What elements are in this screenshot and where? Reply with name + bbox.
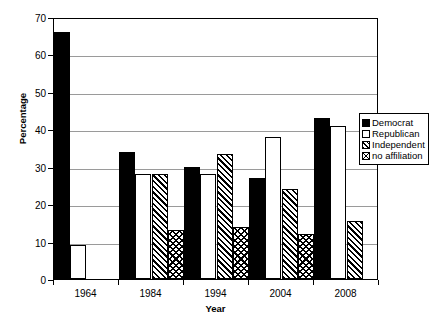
bar-2008-republican: [330, 126, 346, 279]
y-tick-mark-20: [48, 205, 53, 206]
plot-area: [53, 18, 378, 280]
y-tick-label-20: 20: [16, 200, 46, 211]
bar-2004-democrat: [249, 178, 265, 279]
legend-label: no affiliation: [372, 150, 423, 161]
y-tick-label-0: 0: [16, 275, 46, 286]
y-tick-mark-30: [48, 168, 53, 169]
x-tick-mark-3: [313, 280, 314, 285]
y-tick-mark-50: [48, 93, 53, 94]
legend-label: Democrat: [372, 117, 413, 128]
bar-1994-democrat: [184, 167, 200, 279]
y-tick-mark-60: [48, 55, 53, 56]
bar-2008-democrat: [314, 118, 330, 279]
bar-2004-no-affiliation: [298, 234, 314, 279]
y-axis-tick-labels: 706050403020100: [16, 0, 46, 317]
x-tick-label-1984: 1984: [116, 288, 186, 299]
y-tick-label-40: 40: [16, 125, 46, 136]
y-tick-label-60: 60: [16, 50, 46, 61]
legend-swatch-icon-republican: [362, 130, 370, 138]
y-tick-label-70: 70: [16, 13, 46, 24]
y-tick-mark-70: [48, 18, 53, 19]
x-tick-mark-4: [378, 280, 379, 285]
legend-item-republican[interactable]: Republican: [362, 128, 425, 139]
x-tick-mark-1: [183, 280, 184, 285]
x-tick-mark-origin: [53, 280, 54, 285]
x-tick-label-2008: 2008: [311, 288, 381, 299]
legend-swatch-icon-independent: [362, 141, 370, 149]
x-tick-label-1994: 1994: [181, 288, 251, 299]
bar-1964-democrat: [54, 32, 70, 279]
legend-swatch-icon-democrat: [362, 119, 370, 127]
chart-legend: DemocratRepublicanIndependentno affiliat…: [359, 113, 429, 165]
legend-item-no-affiliation[interactable]: no affiliation: [362, 150, 425, 161]
x-axis-title: Year: [53, 303, 378, 314]
y-tick-mark-40: [48, 130, 53, 131]
y-tick-label-10: 10: [16, 237, 46, 248]
y-tick-label-30: 30: [16, 162, 46, 173]
legend-item-democrat[interactable]: Democrat: [362, 117, 425, 128]
bar-2004-republican: [265, 137, 281, 279]
y-tick-mark-10: [48, 243, 53, 244]
bar-2004-independent: [282, 189, 298, 279]
legend-label: Independent: [372, 139, 425, 150]
bar-1984-independent: [152, 174, 168, 279]
bar-2008-independent: [347, 221, 363, 279]
bar-1964-republican: [70, 245, 86, 279]
bar-1994-independent: [217, 154, 233, 279]
bar-1984-no-affiliation: [168, 230, 184, 279]
x-tick-label-1964: 1964: [51, 288, 121, 299]
bar-1984-republican: [135, 174, 151, 279]
x-tick-label-2004: 2004: [246, 288, 316, 299]
legend-swatch-icon-noaffiliation: [362, 152, 370, 160]
bar-1994-republican: [200, 174, 216, 279]
y-tick-label-50: 50: [16, 87, 46, 98]
bar-1984-democrat: [119, 152, 135, 279]
x-tick-mark-2: [248, 280, 249, 285]
bar-1994-no-affiliation: [233, 227, 249, 279]
legend-item-independent[interactable]: Independent: [362, 139, 425, 150]
bar-chart: Percentage 706050403020100 1964198419942…: [0, 0, 433, 317]
bars-layer: [54, 19, 377, 279]
legend-label: Republican: [372, 128, 420, 139]
x-tick-mark-0: [118, 280, 119, 285]
